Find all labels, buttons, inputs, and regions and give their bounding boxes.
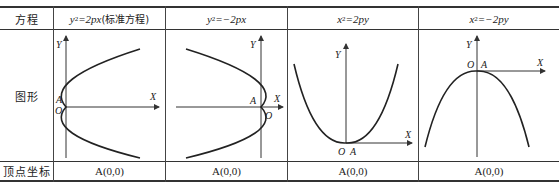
origin-label: O bbox=[55, 105, 62, 116]
vertex-label: A bbox=[349, 146, 357, 157]
equation-cell: x2=−2py bbox=[419, 8, 559, 29]
origin-label: O bbox=[265, 110, 272, 121]
origin-label: O bbox=[338, 146, 345, 157]
x-axis-label: X bbox=[536, 57, 544, 68]
parabola-graph-right: Y X A O bbox=[54, 30, 165, 161]
parabola-graph-down: Y X O A bbox=[419, 30, 559, 161]
vertex-cell: A(0,0) bbox=[419, 162, 559, 180]
equation-rhs: =−2px bbox=[215, 13, 246, 25]
vertex-label: A bbox=[480, 59, 488, 70]
x-axis-label: X bbox=[149, 91, 157, 102]
parabola-graph-left: Y X A O bbox=[166, 30, 287, 161]
parabola-graph-up: Y X O A bbox=[288, 30, 418, 161]
table-bottom-border bbox=[0, 180, 559, 182]
equation-rhs: =2px bbox=[78, 13, 101, 25]
x-axis-label: X bbox=[404, 129, 412, 140]
row-label-vertex: 顶点坐标 bbox=[0, 162, 53, 180]
vertex-cell: A(0,0) bbox=[166, 162, 287, 180]
row-label-equation: 方程 bbox=[0, 8, 53, 29]
origin-label: O bbox=[467, 59, 474, 70]
parabola-curve bbox=[61, 49, 140, 158]
vertex-cell: A(0,0) bbox=[54, 162, 165, 180]
vertex-cell: A(0,0) bbox=[288, 162, 418, 180]
equation-cell: x2=2py bbox=[288, 8, 418, 29]
equation-cell: y2=2px(标准方程) bbox=[54, 8, 165, 29]
vertex-label: A bbox=[249, 95, 257, 106]
equation-cell: y2=−2px bbox=[166, 8, 287, 29]
y-axis-label: Y bbox=[56, 39, 63, 50]
y-axis-label: Y bbox=[466, 39, 473, 50]
equation-rhs: =−2py bbox=[478, 13, 509, 25]
row-label-graph: 图形 bbox=[0, 30, 53, 161]
equation-note: (标准方程) bbox=[101, 11, 149, 26]
vertex-label: A bbox=[55, 94, 63, 105]
y-axis-label: Y bbox=[335, 49, 342, 60]
y-axis-label: Y bbox=[250, 39, 257, 50]
x-axis-label: X bbox=[273, 93, 281, 104]
equation-rhs: =2py bbox=[346, 13, 369, 25]
parabola-table: 方程 图形 顶点坐标 y2=2px(标准方程) y2=−2px x2=2py x… bbox=[0, 6, 559, 182]
